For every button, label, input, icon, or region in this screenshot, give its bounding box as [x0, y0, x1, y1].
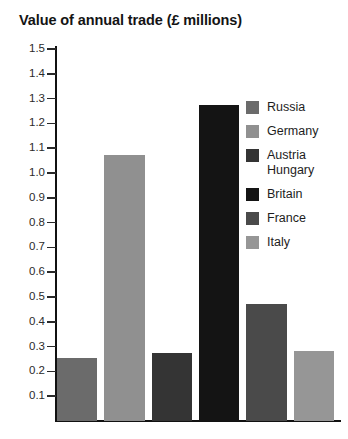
legend-item[interactable]: Italy — [246, 235, 346, 250]
legend-item[interactable]: Britain — [246, 187, 346, 202]
legend-item-label: Britain — [267, 187, 302, 202]
legend-item[interactable]: France — [246, 211, 346, 226]
legend-item[interactable]: Austria Hungary — [246, 148, 346, 178]
chart-legend: RussiaGermanyAustria HungaryBritainFranc… — [246, 100, 346, 259]
bar-germany — [104, 155, 144, 421]
legend-swatch-icon — [246, 236, 259, 249]
legend-item-label: Russia — [267, 100, 305, 115]
legend-swatch-icon — [246, 125, 259, 138]
legend-item-label: Italy — [267, 235, 290, 250]
legend-swatch-icon — [246, 188, 259, 201]
legend-item[interactable]: Russia — [246, 100, 346, 115]
legend-item-label: France — [267, 211, 306, 226]
bar-france — [246, 304, 286, 421]
legend-swatch-icon — [246, 212, 259, 225]
bar-russia — [57, 358, 97, 421]
legend-swatch-icon — [246, 101, 259, 114]
legend-swatch-icon — [246, 149, 259, 162]
bar-austria-hungary — [152, 353, 192, 421]
bar-britain — [199, 105, 239, 421]
legend-item-label: Austria Hungary — [267, 148, 314, 178]
legend-item[interactable]: Germany — [246, 124, 346, 139]
legend-item-label: Germany — [267, 124, 318, 139]
chart-container: Value of annual trade (£ millions) 1.51.… — [0, 0, 348, 439]
bar-italy — [294, 351, 334, 421]
